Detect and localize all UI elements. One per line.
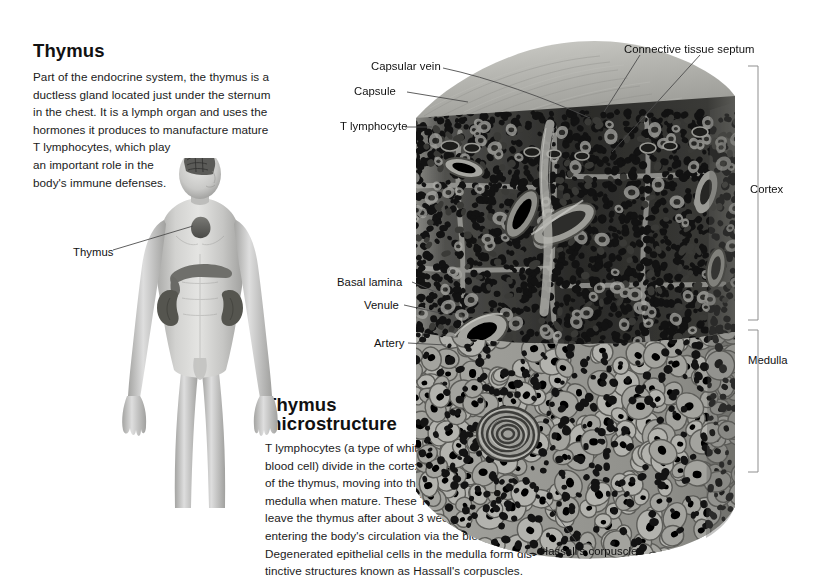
label-connective-tissue-septum: Connective tissue septum <box>624 43 755 56</box>
label-t-lymphocyte: T lymphocyte <box>340 120 408 133</box>
intro-heading: Thymus <box>33 41 333 61</box>
intro-line-4: hormones it produces to manufacture matu… <box>33 121 333 139</box>
medulla-region <box>404 313 749 561</box>
intro-line-5: T lymphocytes, which play <box>33 138 333 156</box>
intro-line-3: in the chest. It is a lymph organ and us… <box>33 103 333 121</box>
body-silhouette <box>122 158 278 508</box>
intro-line-2: ductless gland located just under the st… <box>33 86 333 104</box>
illustration-page: Thymus Part of the endocrine system, the… <box>0 0 823 579</box>
label-venule: Venule <box>364 299 399 312</box>
label-hassalls-corpuscle: Hassall's corpuscle <box>540 545 637 558</box>
bracket-label-cortex: Cortex <box>750 183 783 195</box>
label-thymus-organ: Thymus <box>73 246 113 259</box>
label-capsular-vein: Capsular vein <box>371 60 441 73</box>
label-capsule: Capsule <box>354 85 396 98</box>
thymus-tissue-block <box>404 36 749 561</box>
bracket-medulla <box>748 330 758 472</box>
human-body-figure <box>120 158 280 513</box>
block-right-face <box>706 102 735 538</box>
intro-line-1: Part of the endocrine system, the thymus… <box>33 68 333 86</box>
micro-line-8: tinctive structures known as Hassall's c… <box>265 562 595 579</box>
label-basal-lamina: Basal lamina <box>337 276 402 289</box>
label-artery: Artery <box>374 337 404 350</box>
cortex-region <box>404 96 749 358</box>
bracket-label-medulla: Medulla <box>748 354 788 366</box>
